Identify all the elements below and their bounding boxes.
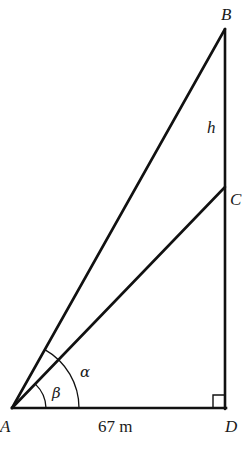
triangle-diagram: B h C α β A 67 m D bbox=[0, 0, 245, 450]
label-point-c: C bbox=[230, 190, 242, 209]
label-point-a: A bbox=[0, 417, 11, 436]
label-point-b: B bbox=[221, 5, 232, 24]
label-alpha: α bbox=[80, 363, 90, 381]
angle-beta-arc bbox=[36, 384, 46, 408]
label-point-d: D bbox=[224, 417, 238, 436]
label-base-length: 67 m bbox=[98, 417, 132, 436]
label-h: h bbox=[207, 118, 216, 137]
angle-alpha-arc bbox=[45, 350, 79, 408]
right-angle-marker bbox=[213, 395, 225, 408]
label-beta: β bbox=[51, 384, 61, 402]
